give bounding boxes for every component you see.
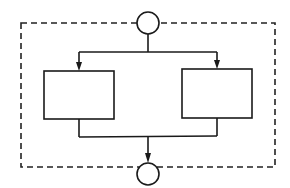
left-arrow-head-icon [76, 62, 82, 71]
parallel-flowchart [0, 0, 290, 188]
start-connector-circle [137, 12, 159, 34]
right-arrow-head-icon [214, 60, 220, 69]
process-box-right [182, 69, 252, 118]
end-arrow-head-icon [145, 153, 151, 163]
process-box-left [44, 71, 114, 119]
end-connector-circle [137, 163, 159, 185]
